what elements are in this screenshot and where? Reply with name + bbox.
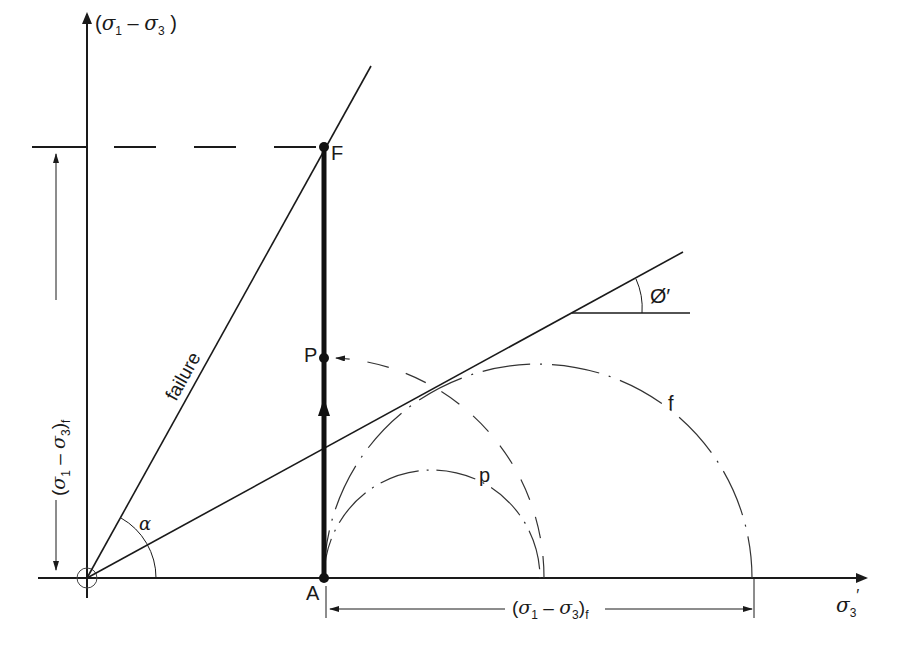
alpha-label: α bbox=[139, 513, 151, 534]
circle-p-label: p bbox=[479, 464, 490, 486]
point-F-label: F bbox=[331, 142, 343, 164]
phi-envelope-line bbox=[87, 252, 683, 578]
phi-angle-arc bbox=[636, 279, 642, 313]
vertical-dimension-label: (σ1 – σ3)f bbox=[47, 419, 73, 496]
point-F bbox=[319, 142, 329, 152]
circle-f-label: f bbox=[668, 392, 674, 414]
point-A bbox=[319, 573, 329, 583]
mohr-circle-p bbox=[324, 470, 540, 578]
point-P-label: P bbox=[304, 344, 317, 366]
y-axis-label: (σ1 – σ3 ) bbox=[95, 11, 177, 38]
phi-label: Ø′ bbox=[650, 284, 670, 307]
stress-path-arrow-icon bbox=[318, 398, 330, 416]
x-axis-label: σ3′ bbox=[836, 587, 859, 620]
mohr-circle-f bbox=[324, 364, 752, 578]
rotation-arc-to-P bbox=[336, 358, 544, 578]
point-A-label: A bbox=[306, 582, 320, 604]
horizontal-dimension-label: (σ1 – σ3)f bbox=[512, 596, 589, 622]
point-P bbox=[319, 353, 329, 363]
stress-path-diagram: (σ1 – σ3 ) σ3′ failure Ø′ α (σ1 – σ3)f p… bbox=[0, 0, 904, 646]
